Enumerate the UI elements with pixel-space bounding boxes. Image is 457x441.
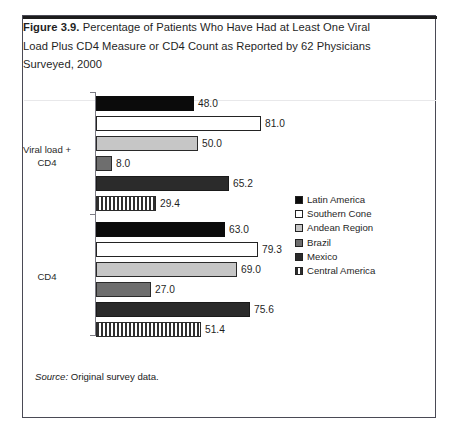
group-label-line1: Viral load + [23, 144, 71, 155]
swatch-andean-region-icon [295, 224, 303, 232]
bar-value-label: 50.0 [202, 136, 222, 151]
legend-item-central-america[interactable]: Central America [295, 262, 415, 276]
bar-andean-region-cd4[interactable] [96, 262, 237, 277]
bar-value-label: 79.3 [262, 242, 282, 257]
bar-andean-region-viral[interactable] [96, 136, 198, 151]
axis-tick-middle [90, 214, 95, 215]
bar-southern-cone-viral[interactable] [96, 116, 261, 131]
bar-value-label: 75.6 [254, 302, 274, 317]
bar-mexico-cd4[interactable] [96, 302, 250, 317]
source-text: Original survey data. [68, 371, 159, 382]
swatch-southern-cone-icon [295, 210, 303, 218]
figure-caption: Figure 3.9. Percentage of Patients Who H… [23, 18, 385, 74]
swatch-brazil-icon [295, 239, 303, 247]
source-word: Source: [35, 371, 68, 382]
legend-item-andean-region[interactable]: Andean Region [295, 219, 415, 233]
bar-brazil-viral[interactable] [96, 156, 112, 171]
bar-value-label: 8.0 [116, 156, 130, 171]
chart-legend: Latin America Southern Cone Andean Regio… [295, 191, 415, 276]
bar-value-label: 69.0 [241, 262, 261, 277]
swatch-mexico-icon [295, 253, 303, 261]
bar-value-label: 81.0 [265, 116, 285, 131]
bar-value-label: 63.0 [229, 222, 249, 237]
legend-label: Andean Region [307, 222, 373, 233]
group-label-cd4: CD4 [2, 271, 92, 284]
group-label-line1: CD4 [37, 271, 56, 282]
legend-item-mexico[interactable]: Mexico [295, 248, 415, 262]
legend-label: Brazil [307, 237, 331, 248]
bar-value-label: 29.4 [160, 196, 180, 211]
bar-central-america-viral[interactable] [96, 196, 156, 211]
legend-label: Southern Cone [307, 208, 372, 219]
legend-label: Mexico [307, 251, 337, 262]
legend-label: Central America [307, 265, 375, 276]
axis-tick-bottom [90, 335, 95, 336]
bar-value-label: 27.0 [155, 282, 175, 297]
legend-item-brazil[interactable]: Brazil [295, 234, 415, 248]
bar-brazil-cd4[interactable] [96, 282, 151, 297]
legend-item-southern-cone[interactable]: Southern Cone [295, 205, 415, 219]
group-label-line2: CD4 [37, 157, 56, 168]
bar-value-label: 51.4 [205, 322, 225, 337]
bar-value-label: 48.0 [198, 96, 218, 111]
group-label-viral-load-cd4: Viral load + CD4 [2, 144, 92, 169]
axis-tick-top [90, 92, 95, 93]
bar-central-america-cd4[interactable] [96, 322, 201, 337]
bar-latin-america-viral[interactable] [96, 96, 194, 111]
bar-mexico-viral[interactable] [96, 176, 229, 191]
swatch-latin-america-icon [295, 196, 303, 204]
legend-item-latin-america[interactable]: Latin America [295, 191, 415, 205]
figure-source-note: Source: Original survey data. [35, 371, 159, 382]
bar-southern-cone-cd4[interactable] [96, 242, 258, 257]
figure-number: Figure 3.9. [23, 21, 80, 33]
legend-label: Latin America [307, 194, 365, 205]
bar-latin-america-cd4[interactable] [96, 222, 225, 237]
swatch-central-america-icon [295, 267, 303, 275]
bar-value-label: 65.2 [233, 176, 253, 191]
